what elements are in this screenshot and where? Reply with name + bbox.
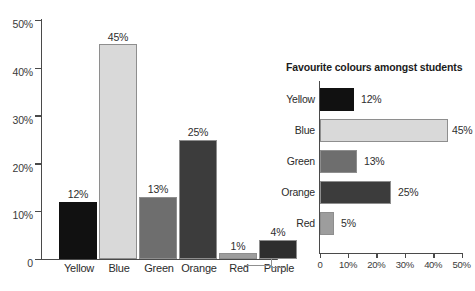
category-label-yellow: Yellow — [282, 93, 315, 105]
category-label-red: Red — [282, 217, 315, 229]
page-edge-mark — [244, 265, 272, 266]
category-label-blue: Blue — [282, 124, 315, 136]
bar-group-red[interactable]: 1% — [219, 19, 257, 259]
hbar-value-blue: 45% — [452, 124, 472, 136]
hbar-value-yellow: 12% — [361, 93, 381, 105]
value-tick-label: 20% — [363, 259, 389, 270]
hbar-value-orange: 25% — [398, 186, 418, 198]
hbar-green[interactable] — [320, 150, 357, 173]
bar-yellow[interactable] — [59, 202, 97, 259]
bars-container: 12% 45% 13% 25% 1% 4% — [41, 19, 278, 259]
bar-orange[interactable] — [179, 140, 217, 260]
value-axis-line — [319, 253, 463, 254]
y-tick-label: 10% — [13, 209, 33, 221]
bar-group-green[interactable]: 13% — [139, 19, 177, 259]
bar-value-yellow: 12% — [68, 188, 88, 200]
hbar-value-red: 5% — [341, 217, 356, 229]
bar-group-orange[interactable]: 25% — [179, 19, 217, 259]
bar-group-blue[interactable]: 45% — [99, 19, 137, 259]
value-tick-label: 40% — [420, 259, 446, 270]
bar-blue[interactable] — [99, 44, 137, 259]
chart-title: Favourite colours amongst students — [286, 61, 468, 73]
y-tick-label: 0 — [27, 257, 33, 269]
page-corner-mark — [271, 258, 286, 268]
value-tick-label: 10% — [335, 259, 361, 270]
bar-group-yellow[interactable]: 12% — [59, 19, 97, 259]
bar-value-red: 1% — [231, 240, 246, 252]
y-tick-label: 40% — [13, 66, 33, 78]
hbar-orange[interactable] — [320, 181, 391, 204]
y-tick-label: 30% — [13, 114, 33, 126]
y-tick-label: 20% — [13, 162, 33, 174]
horizontal-bar-chart: Favourite colours amongst students 0 10%… — [282, 55, 468, 291]
value-tick-label: 50% — [449, 259, 475, 270]
value-tick-label: 0 — [307, 259, 333, 270]
y-tick-label: 50% — [13, 18, 33, 30]
category-label-green: Green — [282, 155, 315, 167]
vertical-bar-chart: 50% 40% 30% 20% 10% 0 12% 45% 13% — [0, 0, 290, 291]
value-tick-label: 30% — [392, 259, 418, 270]
hbar-blue[interactable] — [320, 119, 448, 142]
bar-red[interactable] — [219, 253, 257, 259]
bar-value-green: 13% — [148, 183, 168, 195]
hbar-red[interactable] — [320, 212, 334, 235]
bar-value-blue: 45% — [108, 31, 128, 43]
bar-value-orange: 25% — [188, 126, 208, 138]
hbar-value-green: 13% — [364, 155, 384, 167]
category-label-orange: Orange — [280, 186, 315, 198]
hbar-yellow[interactable] — [320, 88, 354, 111]
bar-green[interactable] — [139, 197, 177, 259]
